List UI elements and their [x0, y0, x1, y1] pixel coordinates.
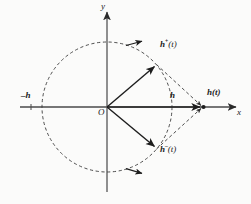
lower-vector-label: h–(t) — [160, 145, 176, 154]
resultant-point-marker — [201, 105, 205, 109]
origin-label: O — [98, 108, 105, 117]
construction-line-upper — [157, 65, 202, 106]
upper-vector-label: h+(t) — [160, 40, 177, 49]
vector-h-minus-t — [107, 107, 155, 147]
resultant-vector-label: h(t) — [207, 88, 221, 97]
diagram-canvas — [0, 0, 251, 204]
neg-radius-label: –h — [21, 91, 31, 100]
rotation-arrow-upper-icon — [126, 41, 142, 45]
upper-vector-label-arg: (t) — [168, 39, 177, 49]
y-axis-label: y — [101, 2, 105, 11]
radius-label: h — [170, 91, 175, 100]
lower-vector-label-arg: (t) — [168, 144, 177, 154]
rotation-arrow-lower-icon — [126, 169, 142, 174]
x-axis-label: x — [237, 108, 241, 117]
construction-line-lower — [157, 109, 202, 150]
vector-diagram-figure: y x O –h h h(t) h+(t) h–(t) — [0, 0, 251, 204]
vector-h-plus-t — [107, 67, 155, 108]
